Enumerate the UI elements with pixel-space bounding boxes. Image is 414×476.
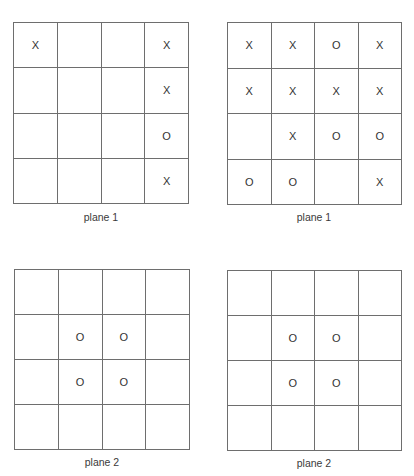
board-label: plane 2: [264, 457, 364, 469]
cell[interactable]: O: [58, 359, 102, 404]
cell[interactable]: [57, 22, 101, 67]
cell[interactable]: O: [227, 159, 271, 205]
cell[interactable]: [358, 315, 402, 360]
cell[interactable]: O: [314, 22, 358, 68]
cell[interactable]: [13, 158, 57, 203]
cell[interactable]: [358, 405, 402, 450]
cell[interactable]: [314, 159, 358, 205]
cell[interactable]: [271, 270, 315, 315]
cell[interactable]: X: [358, 159, 402, 205]
cell[interactable]: O: [58, 314, 102, 359]
cell[interactable]: [145, 359, 189, 404]
cell[interactable]: O: [102, 359, 146, 404]
cell[interactable]: X: [358, 22, 402, 68]
cell[interactable]: X: [271, 22, 315, 68]
board-top-left-plane-1: X X X O X: [13, 22, 189, 204]
cell[interactable]: O: [271, 315, 315, 360]
board-label: plane 1: [264, 211, 364, 223]
cell[interactable]: [227, 315, 271, 360]
cell[interactable]: [57, 113, 101, 158]
cell[interactable]: [358, 270, 402, 315]
cell[interactable]: [145, 404, 189, 449]
cell[interactable]: [14, 269, 58, 314]
cell[interactable]: [13, 113, 57, 158]
cell[interactable]: [58, 269, 102, 314]
cell[interactable]: [227, 270, 271, 315]
cell[interactable]: [227, 113, 271, 159]
cell[interactable]: [227, 360, 271, 405]
cell[interactable]: X: [271, 68, 315, 114]
cell[interactable]: O: [102, 314, 146, 359]
cell[interactable]: X: [227, 22, 271, 68]
cell[interactable]: [57, 67, 101, 112]
cell[interactable]: O: [271, 360, 315, 405]
cell[interactable]: [101, 113, 145, 158]
cell[interactable]: O: [314, 315, 358, 360]
cell[interactable]: [57, 158, 101, 203]
cell[interactable]: O: [144, 113, 188, 158]
cell[interactable]: [314, 270, 358, 315]
cell[interactable]: O: [314, 360, 358, 405]
cell[interactable]: [101, 67, 145, 112]
cell[interactable]: O: [314, 113, 358, 159]
cell[interactable]: [14, 314, 58, 359]
board-label: plane 2: [52, 456, 152, 468]
board-bottom-left-plane-2: O O O O: [14, 269, 190, 450]
cell[interactable]: [271, 405, 315, 450]
cell[interactable]: [14, 359, 58, 404]
cell[interactable]: X: [227, 68, 271, 114]
cell[interactable]: [101, 158, 145, 203]
cell[interactable]: O: [271, 159, 315, 205]
cell[interactable]: [358, 360, 402, 405]
cell[interactable]: [13, 67, 57, 112]
cell[interactable]: X: [13, 22, 57, 67]
cell[interactable]: [314, 405, 358, 450]
cell[interactable]: [102, 269, 146, 314]
cell[interactable]: X: [144, 158, 188, 203]
cell[interactable]: O: [358, 113, 402, 159]
cell[interactable]: X: [271, 113, 315, 159]
cell[interactable]: X: [358, 68, 402, 114]
cell[interactable]: [58, 404, 102, 449]
board-bottom-right-plane-2: O O O O: [227, 270, 402, 451]
cell[interactable]: [14, 404, 58, 449]
cell[interactable]: [101, 22, 145, 67]
cell[interactable]: [227, 405, 271, 450]
cell[interactable]: X: [144, 22, 188, 67]
cell[interactable]: [145, 269, 189, 314]
board-label: plane 1: [51, 211, 151, 223]
cell[interactable]: [102, 404, 146, 449]
cell[interactable]: X: [314, 68, 358, 114]
cell[interactable]: X: [144, 67, 188, 112]
board-top-right-plane-1: X X O X X X X X X O O O O X: [227, 22, 402, 205]
cell[interactable]: [145, 314, 189, 359]
